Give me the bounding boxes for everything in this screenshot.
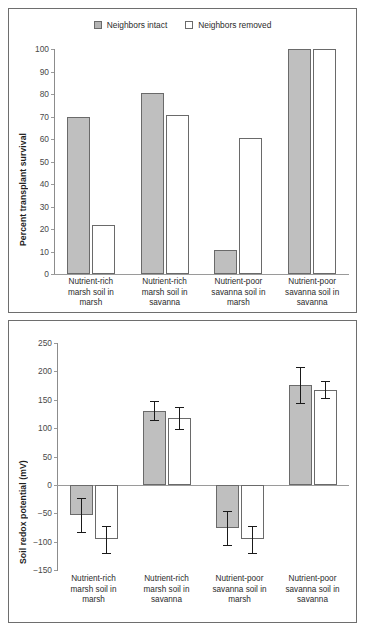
error-bar-line: [300, 367, 301, 402]
y-axis-tick-label: 100: [23, 423, 52, 433]
y-axis-tick-label: 40: [20, 179, 49, 189]
y-axis-tick-label: −50: [23, 508, 52, 518]
category-label-line: savanna: [277, 595, 348, 606]
error-bar-line: [252, 526, 253, 553]
category-label-line: marsh soil in: [129, 288, 201, 299]
category-label-line: savanna: [129, 298, 201, 309]
bar-neighbors-removed: [313, 49, 336, 274]
category-label-line: Nutrient-rich: [55, 277, 127, 288]
y-axis-tick-mark: [54, 513, 57, 514]
category-label-line: savanna soil in: [204, 585, 275, 596]
error-bar-cap-upper: [223, 511, 232, 512]
error-bar-line: [325, 381, 326, 398]
y-axis-tick-label: 60: [20, 134, 49, 144]
error-bar-line: [106, 526, 107, 553]
category-label-line: marsh soil in: [55, 288, 127, 299]
category-label-line: Nutrient-poor: [277, 574, 348, 585]
category-label-line: Nutrient-poor: [276, 277, 348, 288]
category-label-line: savanna: [131, 595, 202, 606]
category-label-line: marsh: [55, 298, 127, 309]
x-axis-category-label: Nutrient-richmarsh soil inmarsh: [57, 574, 130, 606]
bar-neighbors-removed: [166, 115, 189, 274]
y-axis-tick-mark: [51, 229, 54, 230]
y-axis-tick-label: 100: [20, 44, 49, 54]
error-bar-cap-upper: [102, 526, 111, 527]
y-axis-tick-label: −100: [23, 537, 52, 547]
error-bar-cap-upper: [296, 367, 305, 368]
category-label-line: marsh: [58, 595, 129, 606]
y-axis-tick-label: 20: [20, 224, 49, 234]
bar-neighbors-removed: [92, 225, 115, 275]
y-axis-tick-mark: [54, 343, 57, 344]
chart-panel-soil-redox: Soil redox potential (mV) −150−100−50050…: [8, 320, 357, 623]
y-axis-tick-mark: [51, 117, 54, 118]
bar-neighbors-intact: [214, 250, 237, 274]
y-axis-tick-label: 50: [20, 157, 49, 167]
bar-neighbors-removed: [239, 138, 262, 274]
category-label-line: Nutrient-poor: [204, 574, 275, 585]
y-axis-tick-label: 80: [20, 89, 49, 99]
y-axis-tick-mark: [54, 457, 57, 458]
y-axis-tick-mark: [54, 428, 57, 429]
error-bar-cap-lower: [321, 398, 330, 399]
category-label-line: Nutrient-rich: [129, 277, 201, 288]
zero-reference-line: [54, 274, 349, 275]
y-axis-tick-label: 90: [20, 67, 49, 77]
error-bar-cap-upper: [175, 407, 184, 408]
error-bar-cap-lower: [175, 429, 184, 430]
x-axis-category-labels-top: Nutrient-richmarsh soil inmarshNutrient-…: [54, 277, 349, 309]
error-bar-cap-lower: [223, 545, 232, 546]
error-bar-line: [81, 498, 82, 532]
figure-root: Neighbors intact Neighbors removed Perce…: [0, 0, 365, 631]
y-axis-tick-label: 30: [20, 202, 49, 212]
category-label-line: marsh soil in: [58, 585, 129, 596]
x-axis-category-label: Nutrient-richmarsh soil insavanna: [128, 277, 202, 309]
category-label-line: marsh: [204, 595, 275, 606]
error-bar-line: [154, 401, 155, 420]
x-axis-category-labels-bottom: Nutrient-richmarsh soil inmarshNutrient-…: [57, 574, 349, 606]
y-axis-line: [54, 49, 55, 275]
y-axis-tick-mark: [51, 49, 54, 50]
y-axis-tick-label: 0: [23, 480, 52, 490]
error-bar-cap-upper: [150, 401, 159, 402]
y-axis-tick-label: 10: [20, 247, 49, 257]
bar-neighbors-intact: [67, 117, 90, 275]
category-label-line: savanna soil in: [277, 585, 348, 596]
y-axis-tick-label: −150: [23, 565, 52, 575]
x-axis-category-label: Nutrient-poorsavanna soil insavanna: [276, 574, 349, 606]
error-bar-line: [179, 407, 180, 430]
y-axis-tick-mark: [51, 72, 54, 73]
error-bar-cap-lower: [77, 532, 86, 533]
y-axis-tick-mark: [51, 94, 54, 95]
bar-neighbors-removed: [314, 390, 337, 485]
error-bar-cap-upper: [248, 526, 257, 527]
error-bar-cap-lower: [248, 553, 257, 554]
y-axis-tick-mark: [51, 162, 54, 163]
y-axis-tick-label: 70: [20, 112, 49, 122]
y-axis-tick-mark: [51, 139, 54, 140]
y-axis-line: [57, 343, 58, 571]
category-label-line: savanna soil in: [276, 288, 348, 299]
category-label-line: savanna: [276, 298, 348, 309]
error-bar-cap-upper: [321, 381, 330, 382]
error-bar-cap-lower: [102, 553, 111, 554]
y-axis-tick-mark: [54, 400, 57, 401]
y-axis-tick-label: 250: [23, 338, 52, 348]
x-axis-category-label: Nutrient-poorsavanna soil insavanna: [275, 277, 349, 309]
y-axis-tick-mark: [51, 252, 54, 253]
category-label-line: marsh: [203, 298, 275, 309]
x-axis-category-label: Nutrient-poorsavanna soil inmarsh: [202, 277, 276, 309]
x-axis-category-label: Nutrient-richmarsh soil insavanna: [130, 574, 203, 606]
bar-neighbors-intact: [141, 93, 164, 274]
error-bar-cap-upper: [77, 498, 86, 499]
category-label-line: Nutrient-poor: [203, 277, 275, 288]
category-label-line: Nutrient-rich: [131, 574, 202, 585]
y-axis-tick-mark: [54, 371, 57, 372]
error-bar-cap-lower: [150, 420, 159, 421]
category-label-line: marsh soil in: [131, 585, 202, 596]
plot-area-top: 0102030405060708090100: [9, 9, 356, 312]
category-label-line: savanna soil in: [203, 288, 275, 299]
y-axis-tick-mark: [51, 184, 54, 185]
y-axis-tick-label: 0: [20, 269, 49, 279]
y-axis-tick-mark: [54, 570, 57, 571]
